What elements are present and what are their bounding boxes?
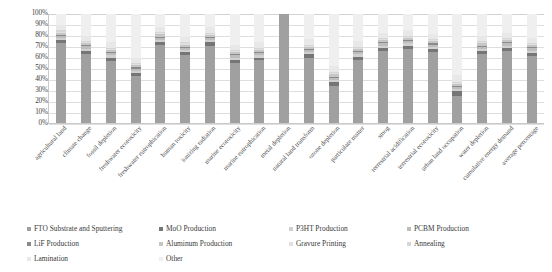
y-axis-tick: 10% bbox=[35, 109, 48, 116]
stacked-bar[interactable] bbox=[230, 14, 240, 123]
y-axis-tick: 60% bbox=[35, 54, 48, 61]
bar-segment bbox=[502, 14, 512, 33]
bar-segment bbox=[353, 14, 363, 41]
bar-segment bbox=[477, 14, 487, 36]
stacked-bar[interactable] bbox=[304, 14, 314, 123]
stacked-bar[interactable] bbox=[527, 14, 537, 123]
stacked-bar[interactable] bbox=[254, 14, 264, 123]
x-axis-tick-label: smog bbox=[376, 125, 391, 140]
stacked-bar[interactable] bbox=[155, 14, 165, 123]
stacked-bar[interactable] bbox=[403, 14, 413, 123]
bar-slot bbox=[470, 14, 495, 123]
bar-slot bbox=[222, 14, 247, 123]
bar-segment bbox=[378, 51, 388, 123]
stacked-bar[interactable] bbox=[378, 14, 388, 123]
bar-segment bbox=[180, 14, 190, 37]
bar-segment bbox=[428, 14, 438, 34]
legend-item[interactable]: Aluminum Production bbox=[159, 236, 289, 251]
legend-swatch bbox=[159, 242, 163, 246]
bar-segment bbox=[329, 86, 339, 123]
stacked-bar[interactable] bbox=[329, 14, 339, 123]
bar-segment bbox=[155, 14, 165, 27]
legend-label: Lamination bbox=[34, 255, 68, 262]
legend-item[interactable]: Lamination bbox=[27, 251, 159, 266]
bar-slot bbox=[297, 14, 322, 123]
y-axis-tick: 50% bbox=[35, 65, 48, 72]
bar-slot bbox=[198, 14, 223, 123]
bar-segment bbox=[378, 14, 388, 33]
bar-segment bbox=[81, 14, 91, 36]
legend-label: P3HT Production bbox=[296, 225, 348, 232]
stacked-bar[interactable] bbox=[353, 14, 363, 123]
bar-slot bbox=[74, 14, 99, 123]
y-axis-tick: 90% bbox=[35, 21, 48, 28]
bar-segment bbox=[56, 14, 66, 25]
legend-swatch bbox=[27, 242, 31, 246]
stacked-bar[interactable] bbox=[131, 14, 141, 123]
legend-item[interactable]: Other bbox=[159, 251, 289, 266]
legend-label: PCBM Production bbox=[414, 225, 469, 232]
bar-segment bbox=[81, 54, 91, 123]
legend-item[interactable]: FTO Substrate and Sputtering bbox=[27, 221, 159, 236]
bar-segment bbox=[106, 14, 116, 42]
legend-swatch bbox=[289, 242, 293, 246]
bar-segment bbox=[205, 46, 215, 123]
legend-label: FTO Substrate and Sputtering bbox=[34, 225, 122, 232]
legend-item[interactable]: MoO Production bbox=[159, 221, 289, 236]
stacked-bar[interactable] bbox=[180, 14, 190, 123]
legend-label: MoO Production bbox=[166, 225, 216, 232]
legend-item[interactable]: LiF Production bbox=[27, 236, 159, 251]
bar-slot bbox=[519, 14, 544, 123]
bar-segment bbox=[106, 61, 116, 123]
bar-slot bbox=[445, 14, 470, 123]
legend-swatch bbox=[159, 257, 163, 261]
bar-slot bbox=[99, 14, 124, 123]
bar-segment bbox=[131, 14, 141, 58]
stacked-bar[interactable] bbox=[106, 14, 116, 123]
legend-label: Other bbox=[166, 255, 183, 262]
bar-segment bbox=[304, 58, 314, 123]
bar-slot bbox=[247, 14, 272, 123]
y-axis-tick: 20% bbox=[35, 98, 48, 105]
stacked-bar[interactable] bbox=[205, 14, 215, 123]
bar-segment bbox=[254, 14, 264, 42]
plot-panel bbox=[48, 14, 544, 124]
x-axis-labels: agricultural landclimate changefossil de… bbox=[48, 125, 544, 210]
bar-slot bbox=[321, 14, 346, 123]
bar-segment bbox=[304, 14, 314, 39]
y-axis: 100%90%80%70%60%50%40%30%20%10%0% bbox=[14, 14, 48, 124]
bar-segment bbox=[205, 14, 215, 27]
bar-segment bbox=[230, 63, 240, 123]
bar-segment bbox=[403, 14, 413, 30]
legend-swatch bbox=[289, 227, 293, 231]
legend-item[interactable]: Annealing bbox=[407, 236, 527, 251]
bar-slot bbox=[346, 14, 371, 123]
stacked-bar[interactable] bbox=[452, 14, 462, 123]
legend-swatch bbox=[27, 227, 31, 231]
bar-slot bbox=[148, 14, 173, 123]
legend-label: Aluminum Production bbox=[166, 240, 232, 247]
bar-segment bbox=[155, 45, 165, 123]
stacked-bar[interactable] bbox=[502, 14, 512, 123]
stacked-bar[interactable] bbox=[56, 14, 66, 123]
bar-segment bbox=[56, 43, 66, 123]
y-axis-tick: 40% bbox=[35, 76, 48, 83]
bar-slot bbox=[371, 14, 396, 123]
legend-item[interactable]: P3HT Production bbox=[289, 221, 407, 236]
y-axis-tick: 80% bbox=[35, 32, 48, 39]
stacked-bar[interactable] bbox=[477, 14, 487, 123]
y-axis-tick: 70% bbox=[35, 43, 48, 50]
stacked-bar[interactable] bbox=[279, 14, 289, 123]
bar-slot bbox=[272, 14, 297, 123]
legend-label: Annealing bbox=[414, 240, 445, 247]
bar-slot bbox=[396, 14, 421, 123]
bar-slot bbox=[49, 14, 74, 123]
stacked-bar[interactable] bbox=[428, 14, 438, 123]
legend-item[interactable]: Gravure Printing bbox=[289, 236, 407, 251]
bar-slot bbox=[123, 14, 148, 123]
bar-segment bbox=[254, 60, 264, 123]
stacked-bar[interactable] bbox=[81, 14, 91, 123]
bar-segment bbox=[180, 55, 190, 123]
bar-segment bbox=[527, 14, 537, 38]
legend-item[interactable]: PCBM Production bbox=[407, 221, 527, 236]
